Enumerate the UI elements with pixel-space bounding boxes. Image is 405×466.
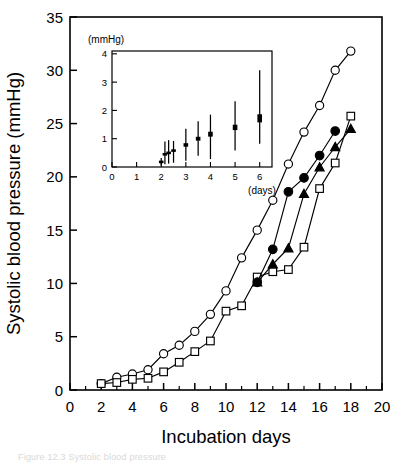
x-tick-label: 20 [374,398,391,415]
y-tick-label: 35 [46,9,63,26]
data-point-filled-circle [300,174,309,183]
inset-x-tick-label: 6 [257,171,262,182]
data-point-open-square [175,358,183,366]
y-tick-label: 0 [55,382,63,399]
inset-y-tick-label: 2 [102,105,107,116]
x-tick-label: 14 [280,398,297,415]
data-point-open-square [160,368,168,376]
inset-data-point [184,143,189,147]
x-tick-label: 6 [159,398,167,415]
y-axis-title: Systolic blood pressure (mmHg) [3,72,24,335]
data-point-open-square [113,379,121,387]
inset-data-point [166,152,171,155]
inset-x-tick-label: 3 [183,171,188,182]
inset-data-point [196,137,201,141]
inset-y-tick-label: 3 [102,77,107,88]
figure-panel: 0246810121416182005101520253035Incubatio… [0,0,405,466]
x-tick-label: 4 [128,398,136,415]
inset-y-tick-label: 4 [102,48,107,59]
systolic-blood-pressure-chart: 0246810121416182005101520253035Incubatio… [0,0,405,466]
y-tick-label: 5 [55,328,63,345]
data-point-open-square [238,302,246,310]
inset-data-point [233,125,238,130]
data-point-open-circle [253,226,261,234]
inset-plot-frame [112,51,272,167]
inset-data-point [257,114,262,122]
x-tick-label: 2 [97,398,105,415]
data-point-open-square [269,268,277,276]
data-point-open-circle [269,196,277,204]
data-point-open-circle [238,254,246,262]
data-point-open-square [191,348,199,356]
data-point-open-circle [175,341,183,349]
data-point-filled-circle [315,151,324,160]
data-point-open-circle [222,287,230,295]
y-tick-label: 25 [46,115,63,132]
x-tick-label: 16 [311,398,328,415]
data-point-open-square [300,243,308,251]
data-point-open-square [347,112,355,120]
x-tick-label: 10 [218,398,235,415]
data-point-filled-circle [331,127,340,136]
inset-x-unit-label: (days) [248,185,276,196]
data-point-open-circle [206,310,214,318]
inset-data-point [208,132,213,137]
inset-x-tick-label: 1 [134,171,139,182]
data-point-open-circle [144,366,152,374]
data-point-open-circle [300,128,308,136]
figure-caption: Figure 12.3 Systolic blood pressure [18,452,388,464]
y-tick-label: 10 [46,275,63,292]
x-axis-title: Incubation days [161,426,291,447]
data-point-open-circle [284,160,292,168]
inset-y-tick-label: 1 [102,133,107,144]
y-tick-label: 20 [46,168,63,185]
inset-y-tick-label: 0 [102,162,107,173]
x-tick-label: 18 [342,398,359,415]
data-point-open-square [316,185,324,193]
data-point-open-square [331,159,339,167]
data-point-open-square [207,337,215,345]
inset-data-point [171,149,176,152]
data-point-filled-circle [269,245,278,254]
inset-x-tick-label: 0 [109,171,114,182]
data-point-filled-circle [284,187,293,196]
data-point-open-square [285,266,293,274]
inset-y-unit-label: (mmHg) [88,34,124,45]
inset-x-tick-label: 5 [232,171,237,182]
data-point-open-square [144,374,152,382]
data-point-open-circle [331,66,339,74]
inset-x-tick-label: 2 [159,171,164,182]
x-tick-label: 12 [249,398,266,415]
x-tick-label: 0 [66,398,74,415]
y-tick-label: 15 [46,222,63,239]
inset-data-point [159,161,164,164]
data-point-open-circle [316,101,324,109]
data-point-open-circle [191,327,199,335]
data-point-open-circle [160,350,168,358]
data-point-open-circle [347,47,355,55]
y-tick-label: 30 [46,62,63,79]
inset-x-tick-label: 4 [208,171,213,182]
data-point-open-square [222,307,230,315]
data-point-open-square [129,376,137,384]
data-point-open-square [97,380,105,388]
x-tick-label: 8 [191,398,199,415]
